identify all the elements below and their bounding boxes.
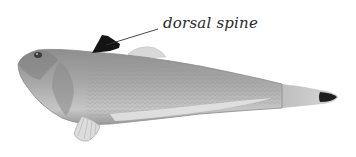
annotation-leader-line bbox=[106, 29, 158, 45]
fish-figure: dorsal spine bbox=[0, 0, 356, 157]
dorsal-spine bbox=[92, 35, 120, 53]
eye-highlight bbox=[36, 53, 38, 55]
annotation-label-dorsal-spine: dorsal spine bbox=[163, 14, 258, 32]
eye bbox=[34, 52, 42, 58]
